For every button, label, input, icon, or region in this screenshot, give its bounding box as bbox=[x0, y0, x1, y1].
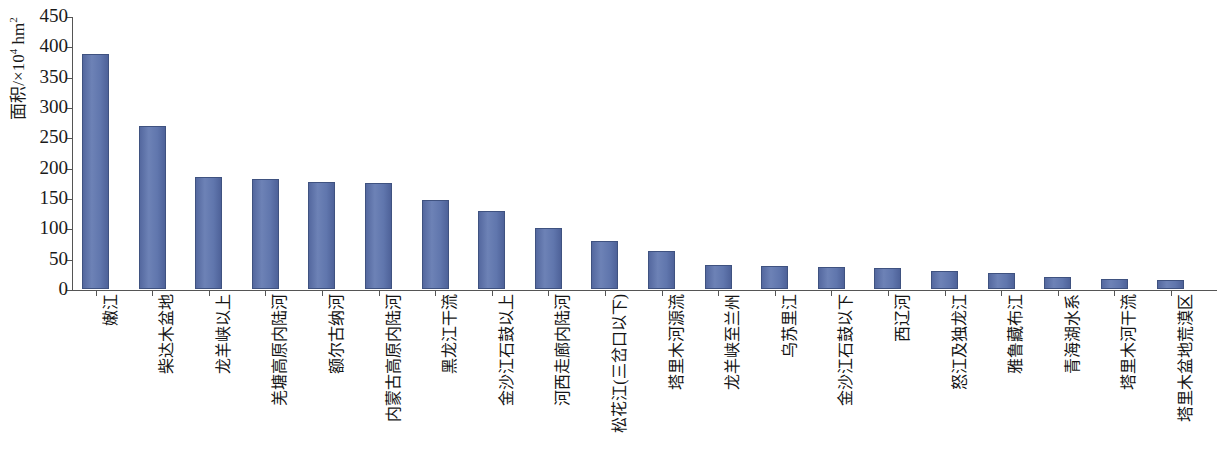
x-axis-label: 额尔古纳河 bbox=[329, 294, 346, 454]
x-axis-label: 松花江(三岔口以下) bbox=[612, 294, 629, 454]
y-axis-line bbox=[72, 17, 73, 291]
x-axis-label: 龙羊峡至兰州 bbox=[725, 294, 742, 454]
x-axis-labels: 嫩江柴达木盆地龙羊峡以上羌塘高原内陆河额尔古纳河内蒙古高原内陆河黑龙江干流金沙江… bbox=[72, 292, 1217, 462]
bar bbox=[591, 241, 618, 289]
x-axis-label: 塔里木河源流 bbox=[669, 294, 686, 454]
y-axis-title-unit-exponent: 2 bbox=[7, 17, 19, 23]
bar bbox=[82, 54, 109, 289]
x-axis-label: 怒江及独龙江 bbox=[952, 294, 969, 454]
y-axis-title-exponent: 4 bbox=[7, 49, 19, 55]
x-axis-label: 柴达木盆地 bbox=[159, 294, 176, 454]
x-axis-label: 金沙江石鼓以上 bbox=[499, 294, 516, 454]
bar bbox=[252, 179, 279, 289]
bar bbox=[818, 267, 845, 289]
plot-area: 050100150200250300350400450 bbox=[72, 17, 1217, 290]
x-axis-label: 羌塘高原内陆河 bbox=[272, 294, 289, 454]
y-tick-label: 350 bbox=[40, 67, 69, 86]
bar bbox=[1101, 279, 1128, 289]
bar bbox=[195, 177, 222, 289]
x-axis-label: 河西走廊内陆河 bbox=[555, 294, 572, 454]
y-tick-label: 450 bbox=[40, 6, 69, 25]
x-axis-label: 雅鲁藏布江 bbox=[1008, 294, 1025, 454]
y-tick-label: 300 bbox=[40, 97, 69, 116]
bar bbox=[705, 265, 732, 289]
y-axis-title-main: 面积/×10 bbox=[9, 54, 28, 119]
y-tick-label: 200 bbox=[40, 158, 69, 177]
x-axis-label: 乌苏里江 bbox=[782, 294, 799, 454]
x-axis-label: 黑龙江干流 bbox=[442, 294, 459, 454]
x-axis-label: 青海湖水系 bbox=[1065, 294, 1082, 454]
y-tick-label: 50 bbox=[49, 249, 68, 268]
y-tick-label: 250 bbox=[40, 127, 69, 146]
x-axis-label: 龙羊峡以上 bbox=[216, 294, 233, 454]
bar bbox=[139, 126, 166, 289]
bar bbox=[535, 228, 562, 289]
x-axis-line bbox=[72, 290, 1217, 291]
bar bbox=[931, 271, 958, 289]
bar bbox=[874, 268, 901, 289]
x-axis-label: 西辽河 bbox=[895, 294, 912, 454]
x-axis-label: 金沙江石鼓以下 bbox=[838, 294, 855, 454]
bar bbox=[648, 251, 675, 289]
y-tick-label: 400 bbox=[40, 36, 69, 55]
bar bbox=[422, 200, 449, 289]
y-tick-label: 150 bbox=[40, 188, 69, 207]
y-tick-label: 100 bbox=[40, 218, 69, 237]
bar bbox=[1157, 280, 1184, 289]
bar bbox=[1044, 277, 1071, 289]
bar-chart: 面积/×104 hm2 050100150200250300350400450 … bbox=[0, 0, 1219, 462]
bar bbox=[308, 182, 335, 289]
x-axis-label: 塔里木河干流 bbox=[1121, 294, 1138, 454]
x-axis-label: 塔里木盆地荒漠区 bbox=[1178, 294, 1195, 454]
bar bbox=[478, 211, 505, 289]
y-axis-title-unit: hm bbox=[9, 23, 28, 49]
bar bbox=[365, 183, 392, 289]
bar bbox=[988, 273, 1015, 289]
x-axis-label: 嫩江 bbox=[103, 294, 120, 454]
x-axis-label: 内蒙古高原内陆河 bbox=[386, 294, 403, 454]
bar bbox=[761, 266, 788, 289]
y-axis-title: 面积/×104 hm2 bbox=[10, 0, 27, 159]
y-tick-label: 0 bbox=[59, 279, 69, 298]
